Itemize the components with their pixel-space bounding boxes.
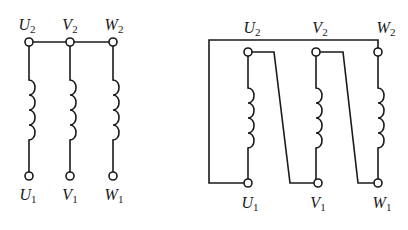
label-w2: W2 (105, 17, 124, 35)
motor-winding-connection-diagrams (0, 0, 408, 230)
delta-winding-w (378, 56, 384, 179)
terminal-u2-icon (244, 48, 252, 56)
delta-loop-wire-w2-u1 (209, 40, 378, 183)
coil-icon (29, 80, 35, 140)
delta-connection-diagram (209, 40, 384, 187)
coil-icon (316, 88, 322, 148)
star-winding-w (113, 46, 119, 172)
label-w1: W1 (373, 195, 392, 213)
label-u2: U2 (18, 17, 35, 35)
star-winding-u (29, 46, 35, 172)
label-u1: U1 (241, 195, 258, 213)
label-u2: U2 (243, 20, 260, 38)
label-w1: W1 (105, 187, 124, 205)
terminal-v1-icon (66, 172, 74, 180)
terminal-w1-icon (374, 179, 382, 187)
terminal-w1-icon (109, 172, 117, 180)
label-u1: U1 (19, 187, 36, 205)
delta-link-u2-v1 (252, 52, 314, 183)
terminal-w2-icon (109, 38, 117, 46)
coil-icon (70, 80, 76, 140)
delta-link-v2-w1 (320, 52, 374, 183)
star-winding-v (70, 46, 76, 172)
label-w2: W2 (377, 20, 396, 38)
label-v1: V1 (310, 195, 325, 213)
terminal-u1-icon (244, 179, 252, 187)
label-v2: V2 (62, 17, 77, 35)
terminal-v2-icon (312, 48, 320, 56)
coil-icon (248, 88, 254, 148)
star-connection-diagram (25, 38, 119, 180)
terminal-u1-icon (25, 172, 33, 180)
label-v1: V1 (62, 187, 77, 205)
delta-winding-u (248, 56, 254, 179)
label-v2: V2 (312, 20, 327, 38)
terminal-u2-icon (25, 38, 33, 46)
delta-winding-v (316, 56, 322, 179)
terminal-v2-icon (66, 38, 74, 46)
coil-icon (113, 80, 119, 140)
coil-icon (378, 88, 384, 148)
terminal-w2-icon (374, 48, 382, 56)
terminal-v1-icon (314, 179, 322, 187)
